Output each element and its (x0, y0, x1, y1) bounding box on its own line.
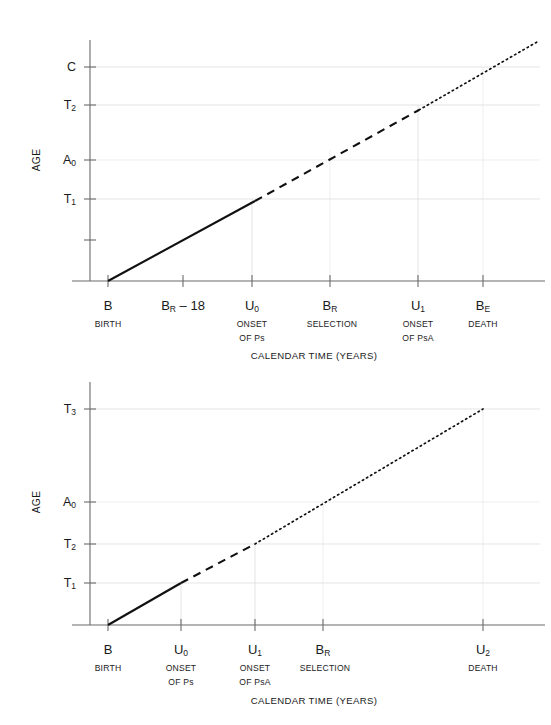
x-label-br18-tail: – 18 (176, 298, 205, 313)
x-label-u0: U0 (245, 299, 259, 312)
x-label-u1: U1 (248, 643, 262, 656)
x-label-u0-base: U (245, 298, 254, 313)
x-note-onset-ps-2: OF Ps (239, 334, 264, 343)
chart-panel-top: AGE C T2 A0 T1 B BR – 18 U0 BR U1 BE BIR… (0, 0, 551, 370)
x-label-b: B (104, 299, 113, 312)
line-segment-observed (108, 201, 255, 281)
y-label-t2-base: T (64, 98, 72, 112)
x-note-selection: SELECTION (300, 664, 351, 673)
x-label-br: BR (323, 299, 338, 312)
line-segment-projected (255, 110, 419, 201)
y-label-t2-base: T (64, 537, 72, 551)
y-label-a0: A0 (63, 154, 76, 167)
figure-page: AGE C T2 A0 T1 B BR – 18 U0 BR U1 BE BIR… (0, 0, 551, 725)
x-note-death: DEATH (468, 664, 498, 673)
y-label-t2-sub: 2 (71, 542, 76, 552)
x-note-onset-psa-1: ONSET (240, 664, 271, 673)
x-label-b-base: B (104, 642, 113, 657)
x-note-onset-ps-1: ONSET (166, 664, 197, 673)
x-label-u2-base: U (476, 642, 485, 657)
line-segment-extrapolated (255, 409, 483, 544)
x-label-u0: U0 (174, 643, 188, 656)
x-note-birth: BIRTH (95, 320, 122, 329)
x-label-u0-base: U (174, 642, 183, 657)
top-chart-svg (0, 0, 551, 370)
x-note-birth: BIRTH (95, 664, 122, 673)
y-label-c: C (67, 61, 76, 74)
x-label-b-base: B (104, 298, 113, 313)
y-label-t2-sub: 2 (71, 103, 76, 113)
x-note-death: DEATH (468, 320, 498, 329)
x-label-u1: U1 (411, 299, 425, 312)
x-label-br18-sub: R (170, 304, 176, 314)
y-label-t1-sub: 1 (71, 197, 76, 207)
x-label-u1-base: U (248, 642, 257, 657)
line-segment-observed (108, 583, 181, 625)
x-note-onset-psa-2: OF PsA (402, 334, 433, 343)
x-label-u0-sub: 0 (183, 648, 188, 658)
y-label-a0-sub: 0 (71, 500, 76, 510)
x-note-onset-ps-1: ONSET (237, 320, 268, 329)
x-label-b: B (104, 643, 113, 656)
x-axis-title: CALENDAR TIME (YEARS) (251, 696, 378, 706)
y-label-t1-base: T (64, 576, 72, 590)
x-label-br-sub: R (331, 304, 337, 314)
x-label-br: BR (316, 643, 331, 656)
y-label-t3-sub: 3 (71, 407, 76, 417)
x-label-br18: BR – 18 (161, 299, 205, 312)
y-label-c-base: C (67, 60, 76, 74)
x-label-u2-sub: 2 (485, 648, 490, 658)
y-label-t1-sub: 1 (71, 581, 76, 591)
x-label-u1-sub: 1 (420, 304, 425, 314)
x-label-be: BE (476, 299, 490, 312)
y-label-a0: A0 (63, 496, 76, 509)
line-segment-extrapolated (419, 42, 537, 110)
x-label-be-sub: E (485, 304, 491, 314)
x-note-onset-psa-1: ONSET (403, 320, 434, 329)
x-label-br-base: B (323, 298, 332, 313)
x-label-u1-sub: 1 (257, 648, 262, 658)
x-axis-title: CALENDAR TIME (YEARS) (251, 351, 378, 361)
y-axis-title: AGE (32, 149, 42, 172)
x-label-br-base: B (316, 642, 325, 657)
line-segment-projected (181, 544, 255, 583)
y-label-t3-base: T (64, 402, 72, 416)
x-label-br18-base: B (161, 298, 170, 313)
y-label-t1: T1 (64, 577, 76, 590)
x-label-u1-base: U (411, 298, 420, 313)
x-label-u2: U2 (476, 643, 490, 656)
y-label-t1: T1 (64, 193, 76, 206)
x-label-u0-sub: 0 (254, 304, 259, 314)
y-label-a0-sub: 0 (71, 158, 76, 168)
x-note-selection: SELECTION (307, 320, 358, 329)
y-label-t3: T3 (64, 403, 76, 416)
x-note-onset-psa-2: OF PsA (239, 678, 270, 687)
y-label-t2: T2 (64, 99, 76, 112)
y-label-t1-base: T (64, 192, 72, 206)
x-note-onset-ps-2: OF Ps (168, 678, 193, 687)
y-axis-title: AGE (32, 491, 42, 514)
chart-panel-bottom: AGE T3 A0 T2 T1 B U0 U1 BR U2 BIRTH ONSE… (0, 370, 551, 725)
x-label-be-base: B (476, 298, 485, 313)
x-label-br-sub: R (324, 648, 330, 658)
y-label-t2: T2 (64, 538, 76, 551)
